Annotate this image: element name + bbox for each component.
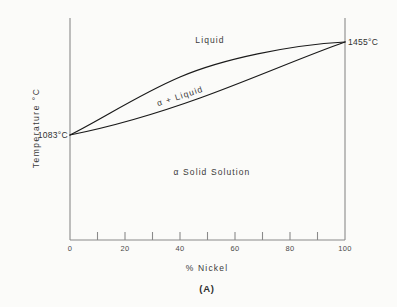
x-tick-label-80: 80 — [285, 244, 294, 253]
liquidus-curve — [70, 42, 345, 135]
solidus-curve — [70, 42, 345, 135]
x-tick-label-20: 20 — [120, 244, 129, 253]
x-axis-title: % Nickel — [186, 263, 229, 273]
x-tick-label-0: 0 — [68, 244, 73, 253]
region-label-alpha-solid-solution: α Solid Solution — [174, 167, 251, 177]
x-tick-label-60: 60 — [230, 244, 239, 253]
y-axis-title: Temperature °C — [31, 88, 41, 169]
x-tick-label-100: 100 — [338, 244, 352, 253]
figure-caption: (A) — [199, 283, 215, 294]
melting-point-nickel-label: 1455°C — [348, 37, 378, 47]
phase-diagram-figure: 0 20 40 60 80 100 1083°C 1455°C Liquid α… — [0, 0, 397, 307]
melting-point-copper-label: 1083°C — [38, 130, 68, 140]
region-label-liquid: Liquid — [195, 35, 224, 45]
x-axis-ticks — [98, 232, 318, 240]
phase-diagram-plot — [0, 0, 397, 307]
x-tick-label-40: 40 — [175, 244, 184, 253]
